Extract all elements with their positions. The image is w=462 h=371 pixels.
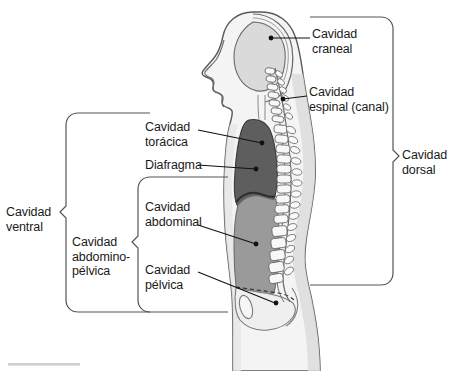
label-thoracic-cavity: Cavidad torácica xyxy=(145,120,190,149)
body-cavities-illustration xyxy=(0,0,462,371)
label-dorsal-line2: dorsal xyxy=(402,163,435,177)
label-spinal-cavity: Cavidad espinal (canal) xyxy=(309,85,389,114)
dorsal-bracket xyxy=(310,17,399,285)
anatomy-figure: Cavidad craneal Cavidad espinal (canal) … xyxy=(0,0,462,371)
dot-thoracic xyxy=(260,141,265,146)
label-ventral-cavity: Cavidad ventral xyxy=(6,205,51,234)
label-abdominopelvic-line3: pélvica xyxy=(72,264,110,278)
body-figure xyxy=(202,12,320,371)
label-cranial-line2: craneal xyxy=(312,42,352,56)
dot-diaphragm xyxy=(254,167,259,172)
label-abdominal-line2: abdominal xyxy=(145,215,202,229)
dot-abdominal xyxy=(254,242,259,247)
label-thoracic-line2: torácica xyxy=(145,135,188,149)
label-cranial-line1: Cavidad xyxy=(312,27,357,41)
label-abdominopelvic-line1: Cavidad xyxy=(72,235,117,249)
label-pelvic-cavity: Cavidad pélvica xyxy=(145,263,190,292)
label-ventral-line2: ventral xyxy=(6,220,43,234)
label-abdominopelvic-line2: abdomino- xyxy=(72,250,130,264)
label-diaphragm: Diafragma xyxy=(145,158,202,173)
label-pelvic-line2: pélvica xyxy=(145,278,183,292)
label-abdominal-cavity: Cavidad abdominal xyxy=(145,200,202,229)
dot-cranial xyxy=(269,36,274,41)
dot-spinal xyxy=(281,97,286,102)
label-spinal-line2: espinal (canal) xyxy=(309,100,389,114)
label-pelvic-line1: Cavidad xyxy=(145,263,190,277)
label-ventral-line1: Cavidad xyxy=(6,205,51,219)
label-diaphragm-line1: Diafragma xyxy=(145,158,202,172)
label-cranial-cavity: Cavidad craneal xyxy=(312,27,357,56)
label-thoracic-line1: Cavidad xyxy=(145,120,190,134)
label-dorsal-line1: Cavidad xyxy=(402,148,447,162)
ventral-bracket xyxy=(60,113,150,312)
footer-rule xyxy=(8,363,80,366)
label-abdominal-line1: Cavidad xyxy=(145,200,190,214)
label-spinal-line1: Cavidad xyxy=(309,85,354,99)
dot-pelvic xyxy=(274,301,279,306)
label-abdominopelvic-cavity: Cavidad abdomino- pélvica xyxy=(72,235,130,279)
label-dorsal-cavity: Cavidad dorsal xyxy=(402,148,447,177)
